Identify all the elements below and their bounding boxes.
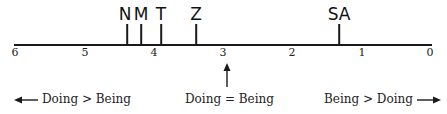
arrow-left-icon (14, 96, 38, 104)
tick-label-5: 5 (82, 47, 89, 59)
marker-t-label: T (156, 5, 166, 23)
marker-m-label: M (134, 5, 149, 23)
caption-center: Doing = Being (185, 92, 274, 106)
marker-sa-label: SA (328, 5, 351, 23)
tick-label-0: 0 (427, 47, 434, 59)
number-line-diagram: 6 5 4 3 2 1 0 N M T Z SA Doing > Being D… (0, 0, 447, 114)
tick-label-3: 3 (220, 47, 227, 59)
caption-center-text: Doing = Being (185, 92, 274, 106)
tick-label-2: 2 (289, 47, 296, 59)
caption-right-text: Being > Doing (324, 92, 413, 106)
caption-right: Being > Doing (324, 92, 441, 106)
arrow-up-icon (222, 63, 232, 87)
caption-left-text: Doing > Being (42, 92, 131, 106)
marker-n-tick (126, 24, 128, 44)
tick-label-4: 4 (151, 47, 158, 59)
tick-label-1: 1 (359, 47, 366, 59)
marker-m-tick (140, 24, 142, 44)
caption-left: Doing > Being (14, 92, 131, 106)
tick-label-6: 6 (12, 47, 19, 59)
marker-z-tick (195, 24, 197, 44)
marker-n-label: N (119, 5, 132, 23)
arrow-right-icon (417, 96, 441, 104)
marker-t-tick (160, 24, 162, 44)
marker-z-label: Z (190, 5, 202, 23)
marker-sa-tick (338, 24, 340, 44)
